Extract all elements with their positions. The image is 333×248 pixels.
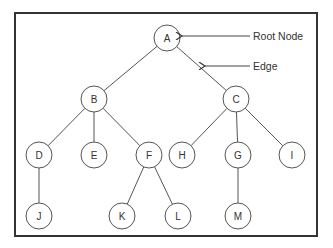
node-D: D — [26, 142, 52, 168]
annotations-group: Root NodeEdge — [182, 30, 303, 72]
node-E: E — [81, 142, 107, 168]
node-label: F — [146, 150, 152, 161]
node-K: K — [109, 203, 135, 229]
node-B: B — [81, 86, 107, 112]
nodes-group: ABCDEFHGIJKLM — [26, 25, 305, 229]
node-label: D — [35, 150, 42, 161]
edge-C-G — [236, 112, 237, 142]
node-label: H — [178, 150, 185, 161]
node-C: C — [223, 86, 249, 112]
annotation-label: Root Node — [253, 30, 303, 42]
node-label: A — [164, 33, 171, 44]
edge-C-I — [245, 108, 283, 146]
annotation-edge: Edge — [205, 60, 278, 72]
node-label: B — [91, 94, 98, 105]
edge-B-F — [103, 108, 140, 145]
node-label: E — [91, 150, 98, 161]
annotation-root-node: Root Node — [182, 30, 303, 42]
node-label: J — [37, 211, 42, 222]
edge-F-K — [127, 167, 143, 204]
edge-A-B — [104, 46, 157, 90]
edges-group — [39, 46, 283, 204]
node-H: H — [169, 142, 195, 168]
edge-F-L — [155, 167, 173, 205]
node-label: G — [234, 150, 242, 161]
node-I: I — [279, 142, 305, 168]
node-F: F — [136, 142, 162, 168]
edge-A-C — [177, 47, 227, 91]
node-label: L — [175, 211, 181, 222]
node-label: K — [119, 211, 126, 222]
node-L: L — [165, 203, 191, 229]
node-label: C — [232, 94, 239, 105]
node-label: M — [234, 211, 242, 222]
node-G: G — [225, 142, 251, 168]
annotation-label: Edge — [253, 60, 278, 72]
node-J: J — [26, 203, 52, 229]
node-M: M — [225, 203, 251, 229]
tree-diagram: ABCDEFHGIJKLM Root NodeEdge — [0, 0, 333, 248]
edge-C-H — [191, 108, 227, 145]
node-label: I — [291, 150, 294, 161]
node-A: A — [154, 25, 180, 51]
edge-B-D — [48, 108, 85, 145]
